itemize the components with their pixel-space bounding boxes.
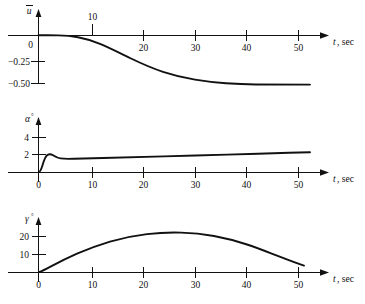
x-tick-label-50-gamma: 50 — [294, 280, 304, 290]
y-tick-label-025-u: −0.25 — [8, 57, 30, 67]
x-axis-label-unit-alpha: , sec — [337, 174, 354, 184]
y-tick-label-0-u: 0 — [28, 40, 33, 50]
x-axis-label-gamma: t , sec — [333, 274, 354, 284]
data-curve-u — [39, 35, 311, 84]
x-tick-label-10-u: 10 — [88, 12, 98, 22]
x-tick-label-10-gamma: 10 — [88, 280, 98, 290]
x-tick-label-50-u: 50 — [294, 43, 304, 53]
plot-panel-gamma: 0 10 20 30 40 50 10 20 γ ° t , sec — [0, 202, 365, 304]
y-tick-label-2-alpha: 2 — [24, 150, 29, 160]
x-tick-label-20-u: 20 — [139, 43, 149, 53]
x-axis-label-unit-u: , sec — [337, 37, 354, 47]
y-axis-label-symbol-u: u — [27, 6, 32, 16]
x-axis-arrow-alpha — [320, 169, 329, 175]
x-tick-label-30-alpha: 30 — [191, 180, 201, 190]
plot-panel-alpha: 0 10 20 30 40 50 2 4 α ° t , sec — [0, 100, 365, 202]
x-tick-label-30-u: 30 — [191, 43, 201, 53]
y-axis-arrow-gamma — [36, 217, 42, 225]
y-tick-label-4-alpha: 4 — [24, 133, 29, 143]
plot-panel-u: 10 20 30 40 50 0 −0.25 −0.50 u t , sec — [0, 0, 365, 100]
x-axis-label-unit-gamma: , sec — [337, 274, 354, 284]
x-axis-label-u: t , sec — [333, 37, 354, 47]
x-tick-label-0-alpha: 0 — [36, 180, 41, 190]
x-tick-label-30-gamma: 30 — [191, 280, 201, 290]
y-axis-label-alpha: α ° — [25, 112, 34, 124]
x-ticks-u — [93, 24, 299, 41]
figure-root: 10 20 30 40 50 0 −0.25 −0.50 u t , sec — [0, 0, 365, 304]
y-axis-arrow-u — [36, 9, 42, 17]
x-axis-label-symbol-u: t — [333, 37, 336, 47]
y-axis-arrow-alpha — [36, 117, 42, 125]
x-tick-label-0-gamma: 0 — [36, 280, 41, 290]
y-axis-label-u: u — [26, 6, 33, 17]
data-curve-gamma — [39, 233, 304, 273]
x-tick-label-20-gamma: 20 — [139, 280, 149, 290]
x-tick-label-40-u: 40 — [242, 43, 252, 53]
plot-svg-gamma: 0 10 20 30 40 50 10 20 γ ° t , sec — [0, 202, 365, 304]
x-axis-arrow-gamma — [320, 269, 329, 275]
x-tick-label-20-alpha: 20 — [139, 180, 149, 190]
x-tick-label-40-gamma: 40 — [242, 280, 252, 290]
y-axis-label-gamma: γ ° — [25, 212, 34, 224]
y-axis-label-degree-gamma: ° — [31, 212, 34, 219]
x-axis-label-symbol-alpha: t — [333, 174, 336, 184]
x-axis-label-alpha: t , sec — [333, 174, 354, 184]
x-tick-label-10-alpha: 10 — [88, 180, 98, 190]
x-axis-label-symbol-gamma: t — [333, 274, 336, 284]
y-axis-label-symbol-gamma: γ — [25, 214, 29, 224]
y-tick-label-050-u: −0.50 — [8, 79, 30, 89]
x-axis-arrow-u — [320, 32, 329, 38]
x-tick-label-40-alpha: 40 — [242, 180, 252, 190]
y-tick-label-20-gamma: 20 — [20, 232, 30, 242]
plot-svg-alpha: 0 10 20 30 40 50 2 4 α ° t , sec — [0, 100, 365, 202]
plot-axes-gamma — [8, 217, 329, 282]
y-axis-label-degree-alpha: ° — [31, 112, 34, 119]
plot-axes-alpha — [8, 117, 329, 182]
y-tick-label-10-gamma: 10 — [20, 250, 30, 260]
plot-svg-u: 10 20 30 40 50 0 −0.25 −0.50 u t , sec — [0, 0, 365, 100]
x-tick-label-50-alpha: 50 — [294, 180, 304, 190]
data-curve-alpha — [39, 152, 311, 172]
